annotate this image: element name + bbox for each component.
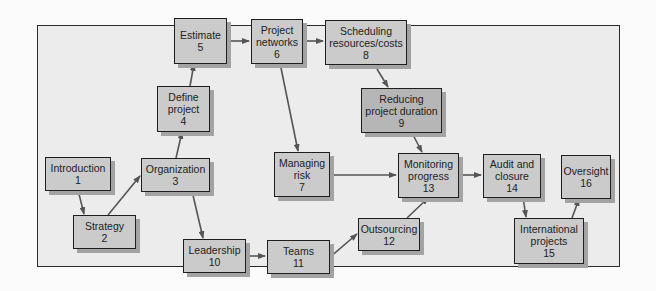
node-monitoring-progress: Monitoring progress 13 (398, 153, 459, 198)
arrow-1-2 (78, 190, 84, 214)
arrow-6-7 (280, 63, 298, 151)
arrow-14-15 (523, 197, 526, 217)
node-label: Organization (146, 163, 206, 175)
node-number: 7 (299, 181, 305, 193)
arrow-4-5 (190, 64, 194, 86)
node-label: Oversight (564, 165, 609, 177)
arrow-2-3 (108, 176, 140, 215)
node-label: Reducing (379, 93, 423, 105)
node-label: Outsourcing (361, 223, 418, 235)
node-number: 6 (274, 48, 280, 60)
node-number: 12 (383, 235, 395, 247)
node-number: 8 (363, 49, 369, 61)
node-label: Introduction (51, 162, 106, 174)
node-teams: Teams 11 (267, 240, 330, 274)
arrow-9-13 (412, 133, 422, 152)
arrow-12-13 (407, 198, 428, 218)
node-number: 5 (198, 41, 204, 53)
node-estimate: Estimate 5 (174, 18, 227, 64)
node-number: 13 (423, 182, 435, 194)
node-oversight: Oversight 16 (561, 155, 611, 199)
node-label: Scheduling (340, 25, 392, 37)
node-label: Strategy (85, 220, 124, 232)
node-number: 1 (75, 174, 81, 186)
node-scheduling-resources-costs: Scheduling resources/costs 8 (325, 20, 407, 65)
node-label-line2: risk (294, 169, 310, 181)
node-international-projects: International projects 15 (514, 218, 584, 264)
node-label: Monitoring (404, 158, 453, 170)
node-number: 11 (293, 257, 304, 269)
node-leadership: Leadership 10 (183, 239, 246, 273)
node-label: Define (168, 91, 198, 103)
node-label-line2: progress (408, 170, 449, 182)
node-label: Project (261, 24, 294, 36)
node-number: 10 (209, 256, 221, 268)
node-label: Teams (283, 245, 314, 257)
node-number: 16 (580, 177, 592, 189)
node-strategy: Strategy 2 (73, 215, 136, 249)
node-number: 14 (506, 182, 518, 194)
node-label-line2: project (168, 103, 200, 115)
node-outsourcing: Outsourcing 12 (358, 218, 420, 251)
arrow-3-4 (176, 132, 182, 158)
node-label-line2: resources/costs (329, 37, 403, 49)
node-label: International (520, 223, 578, 235)
node-label-line2: networks (256, 36, 298, 48)
node-organization: Organization 3 (141, 158, 210, 192)
node-label-line2: closure (495, 170, 529, 182)
arrow-3-10 (192, 191, 203, 238)
node-number: 4 (181, 115, 187, 127)
node-label: Leadership (189, 244, 241, 256)
arrow-11-12 (329, 234, 357, 258)
node-number: 9 (399, 117, 405, 129)
node-project-networks: Project networks 6 (251, 19, 303, 64)
node-managing-risk: Managing risk 7 (274, 152, 330, 197)
node-label: Managing (279, 157, 325, 169)
node-label: Estimate (180, 29, 221, 41)
node-label-line2: projects (531, 235, 568, 247)
node-define-project: Define project 4 (157, 86, 210, 132)
node-number: 2 (102, 232, 108, 244)
node-number: 15 (543, 247, 555, 259)
arrow-8-9 (377, 69, 388, 87)
node-number: 3 (173, 175, 179, 187)
node-audit-and-closure: Audit and closure 14 (483, 154, 541, 198)
node-reducing-project-duration: Reducing project duration 9 (361, 88, 442, 133)
node-introduction: Introduction 1 (45, 157, 111, 191)
arrow-15-16 (572, 199, 579, 218)
node-label: Audit and (490, 158, 534, 170)
node-label-line2: project duration (365, 105, 437, 117)
